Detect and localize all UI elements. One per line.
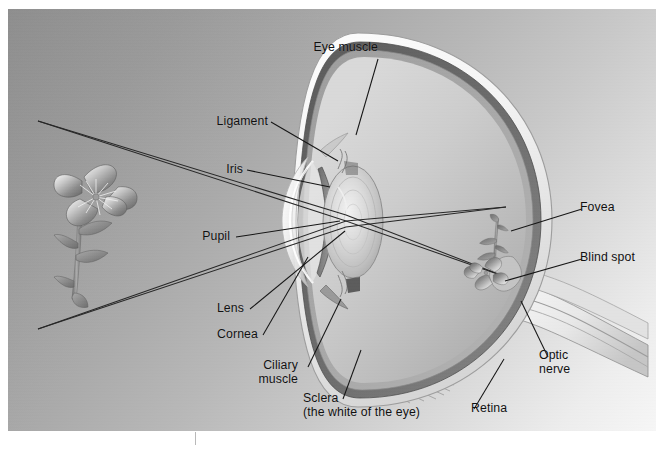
label-iris: Iris [158,162,243,176]
label-retina: Retina [471,401,507,415]
label-optic-nerve-line2: nerve [539,362,570,376]
eye-diagram-figure: Eye muscle Ligament Iris Pupil Lens Corn… [0,0,665,450]
label-fovea: Fovea [580,200,615,214]
label-sclera-line2: (the white of the eye) [303,405,420,419]
diagram-panel: Eye muscle Ligament Iris Pupil Lens Corn… [8,9,656,431]
flower-head [54,165,137,226]
label-ligament: Ligament [158,114,268,128]
label-pupil: Pupil [138,229,230,243]
object-flower [54,165,137,308]
label-blind-spot: Blind spot [580,250,635,264]
label-optic-nerve-line1: Optic [539,348,568,362]
bottom-tick-mark [195,432,196,445]
label-sclera-line1: Sclera [303,391,338,405]
label-cornea: Cornea [148,327,258,341]
label-ciliary-muscle-line1: Ciliary [188,358,298,372]
label-lens: Lens [158,301,244,315]
label-eye-muscle: Eye muscle [268,40,378,54]
label-ciliary-muscle-line2: muscle [188,372,298,386]
